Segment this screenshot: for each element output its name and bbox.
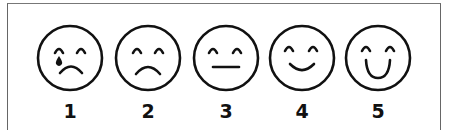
face-5-very-happy[interactable]: 5	[346, 26, 410, 122]
face-outline	[270, 26, 334, 90]
face-3-neutral[interactable]: 3	[194, 26, 258, 122]
left-eye-icon	[285, 47, 293, 51]
rating-label-3: 3	[219, 100, 232, 122]
face-1-crying[interactable]: 1	[38, 26, 102, 122]
face-4-happy[interactable]: 4	[270, 26, 334, 122]
rating-label-1: 1	[63, 100, 76, 122]
face-outline	[194, 26, 258, 90]
face-outline	[346, 26, 410, 90]
frown-mouth-icon	[60, 67, 82, 74]
right-eye-icon	[233, 49, 241, 53]
right-eye-icon	[309, 47, 317, 51]
right-eye-icon	[77, 49, 85, 53]
rating-label-2: 2	[141, 100, 154, 122]
smile-mouth-icon	[290, 64, 314, 70]
face-rating-scale: 1 2 3 4 5	[0, 0, 456, 130]
rating-label-4: 4	[295, 100, 308, 122]
right-eye-icon	[386, 47, 394, 51]
left-eye-icon	[209, 49, 217, 53]
right-eye-icon	[155, 49, 163, 53]
left-eye-icon	[55, 49, 63, 53]
frown-mouth-icon	[136, 67, 160, 74]
rating-label-5: 5	[371, 100, 384, 122]
face-2-sad[interactable]: 2	[116, 26, 180, 122]
face-outline	[38, 26, 102, 90]
tear-icon	[56, 56, 62, 66]
left-eye-icon	[362, 47, 370, 51]
left-eye-icon	[133, 49, 141, 53]
face-outline	[116, 26, 180, 90]
big-smile-mouth-icon	[366, 60, 390, 78]
